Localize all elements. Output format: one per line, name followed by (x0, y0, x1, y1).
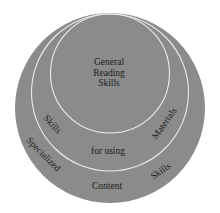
core-label-general-reading-skills: General Reading Skills (69, 57, 149, 89)
outer-ring-bottom-label: Content (84, 182, 130, 192)
nested-circles-diagram: General Reading Skills Skills for using … (0, 0, 220, 213)
core-line-2: Reading (69, 68, 149, 79)
core-line-3: Skills (69, 78, 149, 89)
middle-ring-center-label: for using (84, 147, 132, 157)
core-line-1: General (69, 57, 149, 68)
